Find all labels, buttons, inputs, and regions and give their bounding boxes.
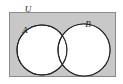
universal-set-label: U	[25, 4, 32, 14]
set-b-label: B	[85, 19, 91, 29]
set-a-label: A	[21, 25, 28, 35]
venn-diagram-canvas: U A B	[0, 0, 123, 84]
venn-diagram-figure: U A B	[0, 0, 123, 84]
